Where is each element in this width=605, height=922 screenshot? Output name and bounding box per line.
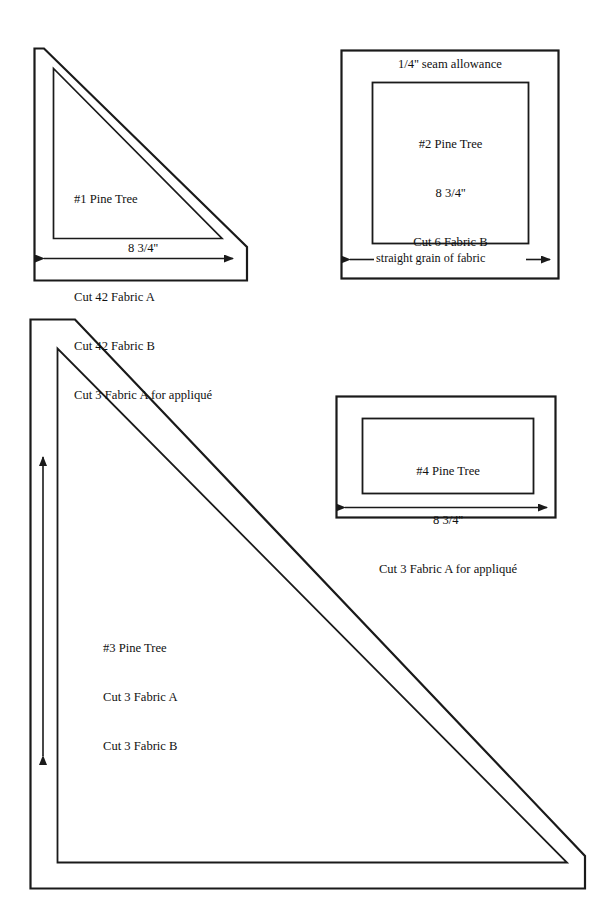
- template-4-label: #4 Pine Tree 8 3/4'' Cut 3 Fabric A for …: [362, 430, 534, 610]
- template-2-label-line-3: Cut 6 Fabric B: [372, 234, 529, 250]
- template-1-label: #1 Pine Tree 8 3/4'' Cut 42 Fabric A Cut…: [74, 158, 212, 436]
- template-2-grain-label: straight grain of fabric: [376, 251, 485, 267]
- template-2-label-line-2: 8 3/4'': [372, 185, 529, 201]
- template-4-label-line-3: Cut 3 Fabric A for appliqué: [362, 561, 534, 577]
- template-3-label-line-1: #3 Pine Tree: [103, 640, 178, 656]
- template-1-label-line-5: Cut 3 Fabric A for appliqué: [74, 387, 212, 403]
- template-4-label-line-1: #4 Pine Tree: [362, 463, 534, 479]
- template-3-label-line-2: Cut 3 Fabric A: [103, 689, 178, 705]
- template-1-label-line-3: Cut 42 Fabric A: [74, 289, 212, 305]
- template-1-label-line-4: Cut 42 Fabric B: [74, 338, 212, 354]
- template-1-label-line-2: 8 3/4'': [74, 240, 212, 256]
- template-3-label: #3 Pine Tree Cut 3 Fabric A Cut 3 Fabric…: [103, 607, 178, 787]
- template-4-label-line-2: 8 3/4'': [362, 512, 534, 528]
- template-2-seam-allowance-note: 1/4'' seam allowance: [341, 56, 559, 72]
- template-1-label-line-1: #1 Pine Tree: [74, 191, 212, 207]
- template-3-label-line-3: Cut 3 Fabric B: [103, 738, 178, 754]
- pattern-sheet: #1 Pine Tree 8 3/4'' Cut 42 Fabric A Cut…: [0, 0, 605, 922]
- template-2-label-line-1: #2 Pine Tree: [372, 136, 529, 152]
